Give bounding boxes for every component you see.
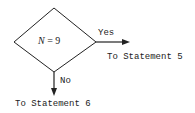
decision-condition: N = 9	[38, 36, 60, 46]
yes-branch-target: To Statement 5	[107, 53, 183, 62]
no-branch-target: To Statement 6	[15, 100, 91, 109]
no-branch-label: No	[60, 77, 71, 86]
no-arrowhead-icon	[51, 88, 57, 96]
condition-operator: =	[47, 35, 53, 46]
yes-arrowhead-icon	[122, 39, 130, 45]
condition-value: 9	[55, 35, 60, 46]
yes-branch-label: Yes	[98, 29, 114, 38]
condition-variable: N	[38, 35, 45, 46]
